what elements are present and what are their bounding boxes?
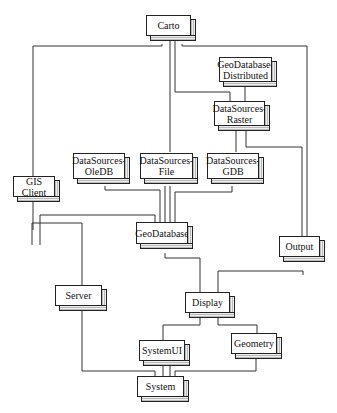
- node-datasources-file: DataSources- File: [140, 153, 198, 184]
- node-datasources-file-line1: DataSources-: [140, 155, 194, 166]
- node-server-label: Server: [55, 285, 102, 306]
- node-system-label: System: [137, 376, 184, 397]
- edge-gdb-geodatabase: [175, 186, 232, 222]
- node-geometry-label: Geometry: [231, 333, 277, 354]
- node-gis-client-label: GIS Client: [13, 176, 55, 197]
- node-geodatabase-distributed: GeoDatabase- Distributed: [219, 57, 277, 87]
- node-systemui-label: SystemUI: [139, 340, 185, 361]
- node-display: Display: [185, 292, 235, 318]
- edge-carto-gisclient: [33, 44, 162, 230]
- node-datasources-oledb-line2: OleDB: [85, 166, 113, 177]
- node-display-label: Display: [185, 292, 230, 313]
- node-systemui: SystemUI: [139, 340, 190, 366]
- node-carto-label: Carto: [146, 15, 191, 36]
- node-carto: Carto: [146, 15, 196, 41]
- node-output: Output: [279, 236, 325, 262]
- node-geodatabase-distributed-line2: Distributed: [223, 70, 268, 81]
- node-output-label: Output: [279, 236, 320, 257]
- node-datasources-oledb-line1: DataSources-: [72, 155, 126, 166]
- node-gis-client: GIS Client: [13, 176, 60, 202]
- node-datasources-oledb: DataSources- OleDB: [73, 153, 130, 184]
- node-datasources-raster-line2: Raster: [227, 114, 253, 125]
- node-geodatabase-label: GeoDatabase: [136, 222, 188, 244]
- node-datasources-file-line2: File: [159, 166, 175, 177]
- node-server: Server: [55, 285, 107, 311]
- node-datasources-raster: DataSources- Raster: [214, 101, 270, 131]
- node-geodatabase: GeoDatabase: [136, 222, 193, 249]
- node-datasources-gdb-line1: DataSources-: [206, 155, 260, 166]
- edge-output-display: [218, 271, 303, 292]
- node-system: System: [137, 376, 189, 402]
- node-datasources-gdb-line2: GDB: [222, 166, 243, 177]
- edge-display-systemui: [163, 315, 200, 342]
- edge-geodatabase-display: [165, 253, 200, 292]
- node-geodatabase-distributed-line1: GeoDatabase-: [217, 59, 274, 70]
- node-datasources-raster-line1: DataSources-: [213, 103, 267, 114]
- node-datasources-gdb: DataSources- GDB: [207, 153, 264, 184]
- node-geometry: Geometry: [231, 333, 282, 359]
- edge-oledb-geodatabase: [105, 186, 160, 222]
